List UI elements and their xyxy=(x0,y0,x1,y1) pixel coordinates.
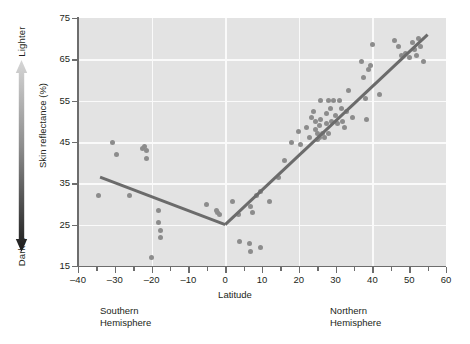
x-axis-tick-major xyxy=(225,267,226,273)
x-axis-tick-minor xyxy=(133,267,134,271)
x-axis-tick-label: 10 xyxy=(242,274,282,285)
x-axis-title: Latitude xyxy=(0,289,470,300)
x-axis-tick-major xyxy=(262,267,263,273)
x-axis-tick-label: –30 xyxy=(95,274,135,285)
regression-line xyxy=(225,35,427,225)
x-axis-tick-label: –40 xyxy=(58,274,98,285)
x-axis-tick-label: –10 xyxy=(168,274,208,285)
y-axis-tick-label: 45 xyxy=(44,136,70,147)
x-axis-tick-label: 0 xyxy=(205,274,245,285)
x-axis-tick-minor xyxy=(280,267,281,271)
x-axis-tick-label: 50 xyxy=(389,274,429,285)
figure-root: Lighter Darker Skin reflectance (%) 1525… xyxy=(0,0,470,344)
x-axis-tick-minor xyxy=(207,267,208,271)
y-axis-line xyxy=(77,17,79,267)
y-axis-tick-label: 65 xyxy=(44,53,70,64)
annotation-northern-line1: Northern xyxy=(330,305,381,317)
y-axis-tick-label: 75 xyxy=(44,12,70,23)
x-axis-tick-label: –20 xyxy=(132,274,172,285)
x-axis-tick-major xyxy=(372,267,373,273)
x-axis-tick-major xyxy=(299,267,300,273)
y-axis-tick xyxy=(72,59,77,60)
y-axis-tick xyxy=(72,18,77,19)
y-axis-tick-label: 15 xyxy=(44,260,70,271)
y-axis-tick xyxy=(72,101,77,102)
y-axis-tick-label: 25 xyxy=(44,219,70,230)
x-axis-tick-label: 30 xyxy=(316,274,356,285)
y-axis-tick-label: 35 xyxy=(44,177,70,188)
annotation-southern-line1: Southern xyxy=(100,305,151,317)
x-axis-tick-major xyxy=(446,267,447,273)
x-axis-tick-minor xyxy=(244,267,245,271)
x-axis-tick-minor xyxy=(317,267,318,271)
x-axis-tick-major xyxy=(188,267,189,273)
x-axis-tick-minor xyxy=(428,267,429,271)
y-axis-tick-label: 55 xyxy=(44,95,70,106)
annotation-northern-hemisphere: Northern Hemisphere xyxy=(330,305,381,329)
x-axis-tick-major xyxy=(78,267,79,273)
x-axis-tick-minor xyxy=(96,267,97,271)
x-axis-tick-label: 60 xyxy=(426,274,466,285)
y-axis-tick xyxy=(72,142,77,143)
x-axis-tick-major xyxy=(336,267,337,273)
y-axis-tick xyxy=(72,225,77,226)
annotation-southern-hemisphere: Southern Hemisphere xyxy=(100,305,151,329)
annotation-northern-line2: Hemisphere xyxy=(330,317,381,329)
x-axis-tick-major xyxy=(152,267,153,273)
x-axis-tick-minor xyxy=(354,267,355,271)
x-axis-tick-major xyxy=(115,267,116,273)
x-axis-tick-label: 20 xyxy=(279,274,319,285)
annotation-southern-line2: Hemisphere xyxy=(100,317,151,329)
x-axis-tick-label: 40 xyxy=(352,274,392,285)
regression-line xyxy=(100,177,225,225)
x-axis-tick-major xyxy=(409,267,410,273)
y-axis-tick xyxy=(72,183,77,184)
y-axis-tick xyxy=(72,266,77,267)
x-axis-tick-minor xyxy=(391,267,392,271)
x-axis-tick-minor xyxy=(170,267,171,271)
